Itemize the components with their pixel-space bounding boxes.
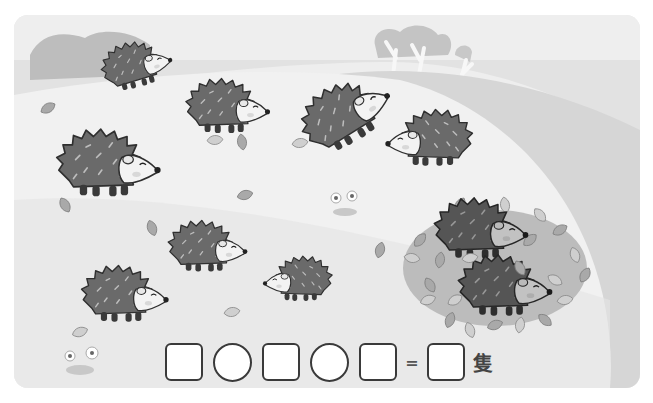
unit-label: 隻 (473, 348, 493, 377)
hedgehog-scene-illustration (14, 15, 640, 388)
number-input-box-3[interactable] (359, 343, 397, 381)
answer-input-box[interactable] (427, 343, 465, 381)
operator-input-circle-2[interactable] (310, 343, 349, 382)
equals-sign: = (405, 353, 419, 372)
number-input-box-1[interactable] (165, 343, 203, 381)
number-input-box-2[interactable] (262, 343, 300, 381)
picture-card: = 隻 (14, 15, 640, 388)
operator-input-circle-1[interactable] (213, 343, 252, 382)
equation-row: = 隻 (165, 340, 493, 384)
